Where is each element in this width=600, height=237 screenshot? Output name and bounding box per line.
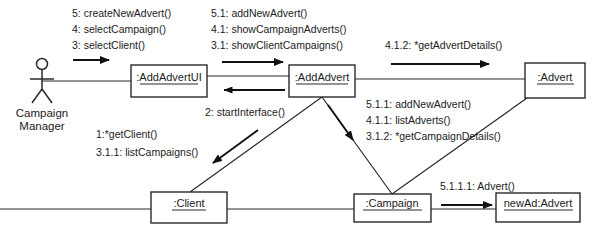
object-addadvert[interactable]: :AddAdvert xyxy=(289,65,355,97)
object-label-addadvert: :AddAdvert xyxy=(295,71,349,83)
label-group-addadvert-to-ui-return: 2: startInterface() xyxy=(205,106,285,118)
message-label: 4.1.1: listAdverts() xyxy=(366,114,451,126)
actor-right-leg-icon xyxy=(42,89,52,103)
message-label: 2: startInterface() xyxy=(205,106,285,118)
message-label: 3.1.1: listCampaigns() xyxy=(96,146,198,158)
message-label: 4.1.2: *getAdvertDetails() xyxy=(385,39,502,51)
uml-collaboration-diagram: :AddAdvertUI :AddAdvert :Advert :Client … xyxy=(0,0,600,237)
label-group-ui-to-addadvert: 5.1: addNewAdvert() 4.1: showCampaignAdv… xyxy=(211,7,346,51)
message-label: 4: selectCampaign() xyxy=(72,23,166,35)
object-newad[interactable]: newAd:Advert xyxy=(496,193,580,222)
label-group-addadvert-to-campaign: 5.1.1: addNewAdvert() 4.1.1: listAdverts… xyxy=(366,98,501,142)
object-label-newad: newAd:Advert xyxy=(504,197,572,209)
object-label-client: :Client xyxy=(173,197,204,209)
label-group-actor-to-ui: 5: createNewAdvert() 4: selectCampaign()… xyxy=(72,7,171,51)
object-advert[interactable]: :Advert xyxy=(525,63,585,98)
message-label: 4.1: showCampaignAdverts() xyxy=(211,23,346,35)
label-group-addadvert-to-client: 1:*getClient() 3.1.1: listCampaigns() xyxy=(96,128,198,158)
diagram-canvas: :AddAdvertUI :AddAdvert :Advert :Client … xyxy=(0,0,600,237)
actor-head-icon xyxy=(37,59,48,70)
label-group-addadvert-to-advert: 4.1.2: *getAdvertDetails() xyxy=(385,39,502,51)
message-label: 5.1.1: addNewAdvert() xyxy=(366,98,471,110)
message-label: 3.1.2: *getCampaignDetails() xyxy=(366,130,501,142)
actor-name-line2: Manager xyxy=(19,120,65,132)
arrow-addadvert-to-client xyxy=(213,130,258,163)
object-addadvertui[interactable]: :AddAdvertUI xyxy=(131,65,207,97)
label-group-campaign-to-newad: 5.1.1.1: Advert() xyxy=(440,180,515,192)
message-label: 5.1: addNewAdvert() xyxy=(211,7,307,19)
actor-campaign-manager[interactable]: Campaign Manager xyxy=(16,59,68,133)
object-label-addadvertui: :AddAdvertUI xyxy=(136,71,201,83)
arrow-addadvert-to-campaign xyxy=(328,105,353,140)
object-client[interactable]: :Client xyxy=(151,192,227,223)
message-label: 5.1.1.1: Advert() xyxy=(440,180,515,192)
actor-left-leg-icon xyxy=(32,89,42,103)
message-label: 3: selectClient() xyxy=(72,39,145,51)
object-campaign[interactable]: :Campaign xyxy=(354,194,431,222)
message-label: 1:*getClient() xyxy=(96,128,157,140)
object-label-advert: :Advert xyxy=(538,71,573,83)
message-label: 3.1: showClientCampaigns() xyxy=(211,39,343,51)
object-label-campaign: :Campaign xyxy=(365,197,418,209)
actor-name-line1: Campaign xyxy=(16,107,68,119)
message-label: 5: createNewAdvert() xyxy=(72,7,171,19)
